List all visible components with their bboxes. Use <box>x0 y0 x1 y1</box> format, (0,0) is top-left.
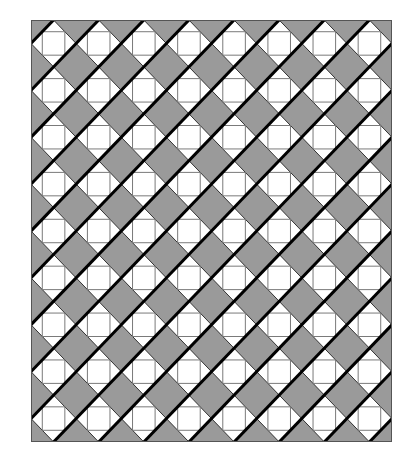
quilt-pattern <box>31 20 392 442</box>
quilt-svg <box>31 20 392 442</box>
